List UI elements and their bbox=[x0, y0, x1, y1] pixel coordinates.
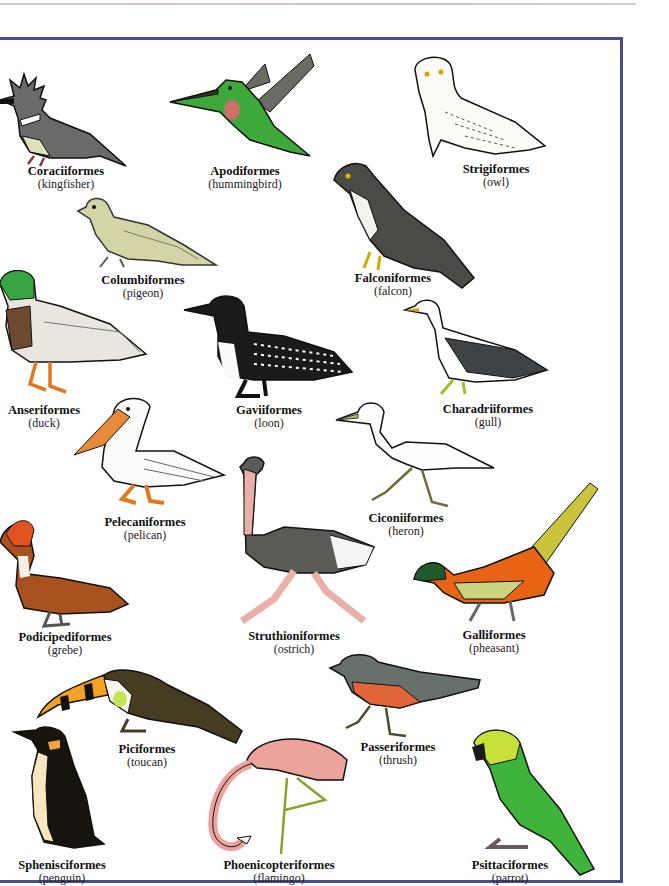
gull-illustration bbox=[405, 298, 550, 396]
common-name: (flamingo) bbox=[223, 872, 334, 885]
hummingbird-illustration bbox=[170, 52, 320, 162]
grebe-illustration bbox=[0, 516, 130, 628]
common-name: (thrush) bbox=[361, 754, 436, 767]
common-name: (toucan) bbox=[119, 756, 176, 769]
common-name: (parrot) bbox=[472, 872, 548, 885]
bird-label: Psittaciformes (parrot) bbox=[472, 859, 548, 885]
thrush-illustration bbox=[330, 652, 482, 740]
common-name: (loon) bbox=[236, 417, 302, 430]
owl-illustration bbox=[405, 52, 550, 160]
duck-illustration bbox=[0, 266, 148, 396]
pigeon-illustration bbox=[78, 195, 218, 270]
common-name: (kingfisher) bbox=[28, 178, 104, 191]
top-rule bbox=[0, 3, 636, 5]
common-name: (falcon) bbox=[355, 285, 431, 298]
bird-label: Anseriformes (duck) bbox=[8, 404, 80, 430]
bird-label: Passeriformes (thrush) bbox=[361, 741, 436, 767]
common-name: (grebe) bbox=[18, 644, 111, 657]
pelican-illustration bbox=[74, 395, 226, 507]
flamingo-illustration bbox=[207, 730, 353, 858]
bird-label: Coraciiformes (kingfisher) bbox=[28, 165, 104, 191]
bird-label: Piciformes (toucan) bbox=[119, 743, 176, 769]
bird-label: Phoenicopteriformes (flamingo) bbox=[223, 859, 334, 885]
parrot-illustration bbox=[470, 729, 596, 875]
bird-label: Struthioniformes (ostrich) bbox=[248, 630, 340, 656]
bird-label: Falconiformes (falcon) bbox=[355, 272, 431, 298]
common-name: (penguin) bbox=[18, 872, 106, 885]
bird-label: Podicipediformes (grebe) bbox=[18, 631, 111, 657]
penguin-illustration bbox=[14, 726, 106, 852]
bird-label: Sphenisciformes (penguin) bbox=[18, 859, 106, 885]
common-name: (duck) bbox=[8, 417, 80, 430]
ostrich-illustration bbox=[234, 455, 376, 627]
pheasant-illustration bbox=[414, 483, 600, 625]
bird-label: Apodiformes (hummingbird) bbox=[208, 165, 281, 191]
loon-illustration bbox=[184, 292, 356, 398]
common-name: (ostrich) bbox=[248, 643, 340, 656]
kingfisher-illustration bbox=[0, 70, 130, 170]
bird-label: Gaviiformes (loon) bbox=[236, 404, 302, 430]
common-name: (hummingbird) bbox=[208, 178, 281, 191]
